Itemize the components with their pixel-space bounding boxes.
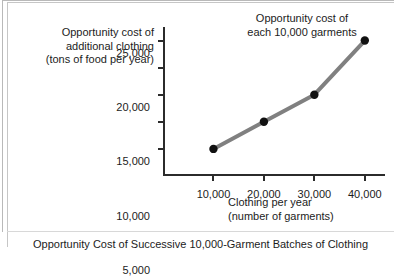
y-tick-label: 15,000	[116, 155, 150, 167]
y-axis-title-line-1: Opportunity cost of	[6, 26, 154, 40]
data-point-marker	[361, 36, 369, 44]
x-tick-label: 10,000	[197, 188, 231, 200]
y-tick-label: 20,000	[116, 101, 150, 113]
panel-border-left-outer	[2, 0, 3, 232]
y-tick-label: 10,000	[116, 210, 150, 222]
x-tick-mark: 10,000	[212, 176, 214, 181]
y-tick-label: 25,000	[116, 47, 150, 59]
panel-border-top-outer	[2, 0, 394, 1]
x-axis-title-line-2: (number of garments)	[228, 210, 388, 224]
panel-border-top-inner	[7, 2, 394, 3]
data-point-marker	[260, 118, 268, 126]
x-tick-mark: 40,000	[364, 176, 366, 181]
series-markers	[209, 36, 369, 153]
x-tick-mark: 30,000	[313, 176, 315, 181]
x-tick-mark: 20,000	[263, 176, 265, 181]
plot-area: 5,00010,00015,00020,00025,000 010,00020,…	[163, 27, 385, 176]
panel-border-bottom	[7, 231, 394, 232]
y-tick-label: 5,000	[122, 264, 150, 276]
x-axis-title-line-1: Clothing per year	[228, 196, 388, 210]
figure-caption: Opportunity Cost of Successive 10,000-Ga…	[7, 238, 394, 251]
series-layer	[163, 27, 385, 176]
x-axis-title: Clothing per year (number of garments)	[228, 196, 388, 223]
data-point-marker	[310, 91, 318, 99]
callout-line-1: Opportunity cost of	[218, 12, 386, 26]
data-point-marker	[209, 145, 217, 153]
series-line	[213, 41, 364, 149]
